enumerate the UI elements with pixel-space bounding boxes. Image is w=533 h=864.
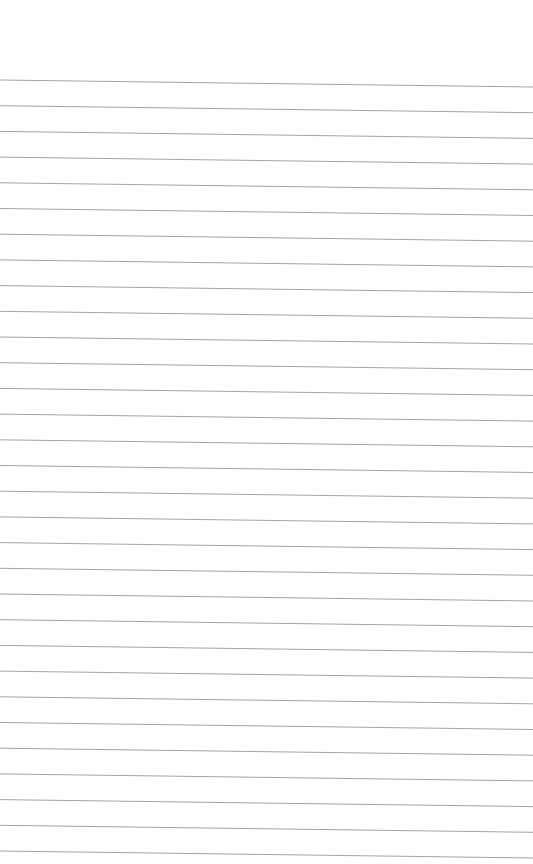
ruled-line: [0, 543, 533, 550]
ruled-line: [0, 414, 533, 421]
ruled-line: [0, 594, 533, 601]
ruled-line: [0, 209, 533, 216]
ruled-line: [0, 157, 533, 164]
ruled-line: [0, 363, 533, 370]
ruled-line: [0, 131, 533, 138]
ruled-line: [0, 645, 533, 652]
ruled-line: [0, 80, 533, 87]
ruled-line: [0, 568, 533, 575]
ruled-line: [0, 671, 533, 678]
lined-paper: [0, 0, 533, 864]
ruled-line: [0, 517, 533, 524]
ruled-line: [0, 466, 533, 473]
ruled-line: [0, 723, 533, 730]
ruled-line: [0, 748, 533, 755]
ruled-line: [0, 337, 533, 344]
ruled-line: [0, 800, 533, 807]
ruled-line: [0, 286, 533, 293]
ruled-line: [0, 183, 533, 190]
ruled-line: [0, 491, 533, 498]
ruled-line: [0, 774, 533, 781]
ruled-line: [0, 440, 533, 447]
ruled-line: [0, 697, 533, 704]
ruled-line: [0, 825, 533, 832]
ruled-line: [0, 311, 533, 318]
ruled-line: [0, 620, 533, 627]
ruled-line: [0, 260, 533, 267]
ruled-line: [0, 106, 533, 113]
ruled-line: [0, 234, 533, 241]
ruled-line: [0, 851, 533, 858]
ruled-line: [0, 388, 533, 395]
